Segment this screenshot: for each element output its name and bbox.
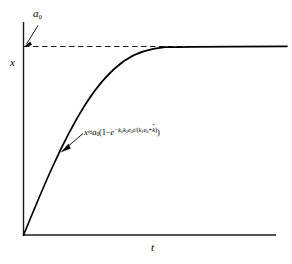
x-axis-label: t — [151, 242, 154, 253]
exponential-curve — [24, 46, 287, 235]
eq-exp-k-hat: k — [152, 127, 155, 134]
eq-open-paren: (1 — [99, 127, 106, 137]
plateau-label: a0 — [33, 8, 42, 21]
plateau-label-subscript: 0 — [39, 13, 42, 20]
y-axis-label: x — [10, 57, 15, 68]
equation-annotation: x≈a0(1−e−k1k2e0t/(k1e0+k)) — [84, 127, 160, 138]
a0-leader-line — [27, 26, 39, 45]
eq-close-paren: ) — [157, 127, 160, 137]
kinetics-plot-figure: a0 x t x≈a0(1−e−k1k2e0t/(k1e0+k)) — [0, 0, 292, 264]
eq-exponent: −k1k2e0t/(k1e0+k) — [114, 126, 157, 133]
